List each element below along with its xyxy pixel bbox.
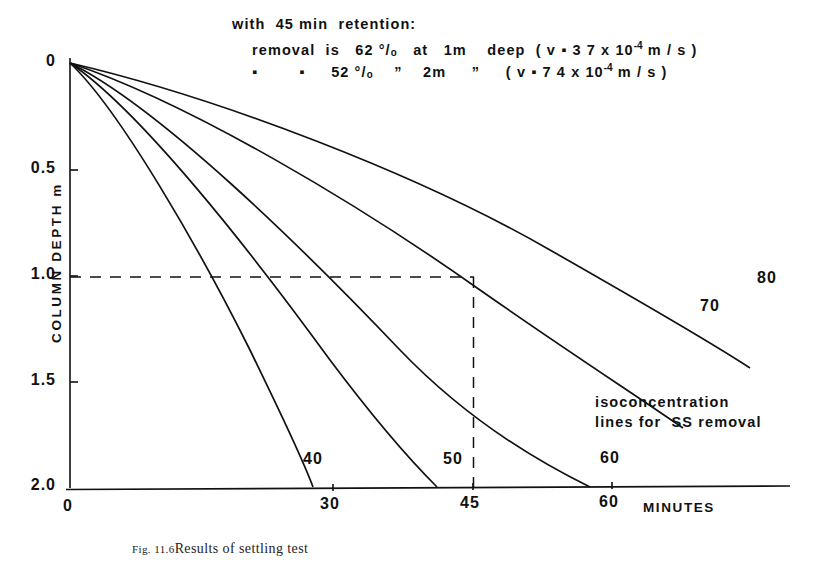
x-tick-label-45: 45 [460,494,480,512]
curve-label-70: 70 [700,297,720,315]
curve-70 [70,63,683,428]
guide-lines [70,277,474,487]
curve-label-60: 60 [600,449,620,467]
curve-label-80: 80 [757,269,777,287]
annotation-line-1: with 45 min retention: [232,16,416,32]
note-line-1: isoconcentration [595,394,729,410]
annotation-line-3-exponent: -4 [604,62,613,73]
curve-label-50: 50 [443,450,463,468]
annotation-line-3-text: ▪ ▪ 52 °/ₒ ” 2m ” ( v ▪ 7 4 x 10 [252,64,604,80]
annotation-line-2-exponent: -4 [634,40,643,51]
figure-number: Fig. 11.6 [132,543,175,555]
figure-caption-text: Results of settling test [175,541,309,556]
settling-test-figure: with 45 min retention: removal is 62 °/ₒ… [0,0,837,562]
figure-caption: Fig. 11.6Results of settling test [132,541,308,557]
annotation-line-2-unit: m / s ) [643,42,698,58]
x-axis [66,486,790,490]
y-axis-ticks [70,170,78,382]
y-axis-title: COLUMN DEPTH m [49,163,64,363]
note-line-2: lines for SS removal [595,414,762,430]
x-tick-label-60: 60 [599,493,619,511]
annotation-line-3: ▪ ▪ 52 °/ₒ ” 2m ” ( v ▪ 7 4 x 10-4 m / s… [252,62,667,80]
curve-label-40: 40 [303,450,323,468]
curve-50 [70,63,437,487]
curve-80 [70,63,750,368]
curve-60 [70,63,590,487]
x-axis-title: MINUTES [643,500,715,515]
annotation-line-2: removal is 62 °/ₒ at 1m deep ( v ▪ 3 7 x… [252,40,697,58]
y-tick-label-2-0: 2.0 [8,476,56,494]
annotation-line-2-text: removal is 62 °/ₒ at 1m deep ( v ▪ 3 7 x… [252,42,634,58]
y-tick-label-1-5: 1.5 [8,371,56,389]
chart-canvas [0,0,837,562]
annotation-line-3-unit: m / s ) [613,64,668,80]
x-tick-label-0: 0 [63,497,73,515]
y-tick-label-0: 0 [14,52,56,70]
x-tick-label-30: 30 [320,495,340,513]
